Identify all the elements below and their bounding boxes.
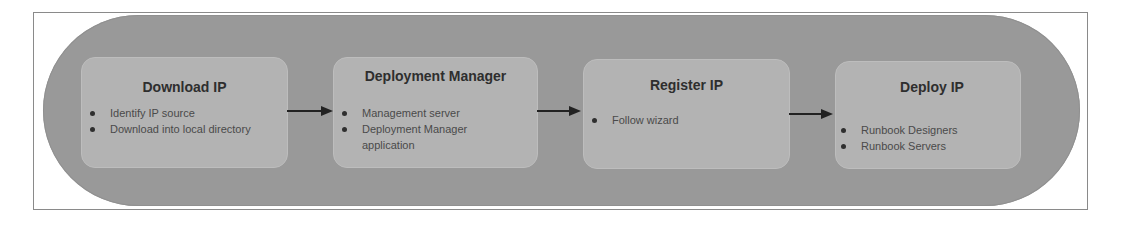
step-title: Download IP — [82, 79, 287, 95]
bullet-item: Follow wizard — [589, 112, 779, 128]
bullet-item: Deployment Manager application — [339, 121, 512, 153]
bullet-item: Download into local directory — [87, 121, 260, 137]
step-bullets: Identify IP source Download into local d… — [87, 105, 277, 137]
step-title: Deployment Manager — [334, 68, 537, 84]
bullet-item: Management server — [339, 105, 529, 121]
step-deployment-manager: Deployment Manager Management server Dep… — [333, 57, 538, 168]
step-bullets: Runbook Designers Runbook Servers — [838, 122, 1018, 154]
step-deploy-ip: Deploy IP Runbook Designers Runbook Serv… — [835, 61, 1021, 169]
step-title: Deploy IP — [836, 79, 1020, 95]
bullet-item: Identify IP source — [87, 105, 277, 121]
bullet-item: Runbook Designers — [838, 122, 1018, 138]
bullet-item: Runbook Servers — [838, 138, 1018, 154]
arrow-right-icon — [789, 109, 835, 119]
arrow-right-icon — [537, 106, 583, 116]
arrow-right-icon — [287, 106, 333, 116]
step-register-ip: Register IP Follow wizard — [583, 59, 790, 169]
step-bullets: Management server Deployment Manager app… — [339, 105, 529, 153]
step-bullets: Follow wizard — [589, 112, 779, 128]
step-title: Register IP — [584, 77, 789, 93]
step-download-ip: Download IP Identify IP source Download … — [81, 57, 288, 168]
